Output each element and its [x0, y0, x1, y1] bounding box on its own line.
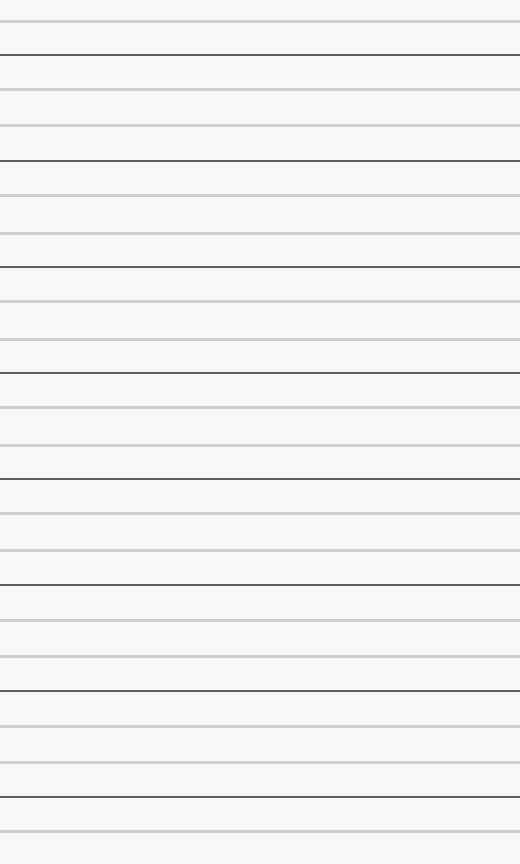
dark-rule-line: [0, 478, 520, 480]
light-rule-line: [0, 232, 520, 235]
light-rule-line: [0, 124, 520, 127]
light-rule-line: [0, 88, 520, 91]
dark-rule-line: [0, 372, 520, 374]
dark-rule-line: [0, 690, 520, 692]
light-rule-line: [0, 444, 520, 447]
dark-rule-line: [0, 160, 520, 162]
light-rule-line: [0, 830, 520, 833]
dark-rule-line: [0, 796, 520, 798]
light-rule-line: [0, 725, 520, 728]
light-rule-line: [0, 761, 520, 764]
dark-rule-line: [0, 266, 520, 268]
light-rule-line: [0, 20, 520, 23]
light-rule-line: [0, 194, 520, 197]
light-rule-line: [0, 338, 520, 341]
dark-rule-line: [0, 584, 520, 586]
light-rule-line: [0, 300, 520, 303]
dark-rule-line: [0, 54, 520, 56]
light-rule-line: [0, 406, 520, 409]
light-rule-line: [0, 549, 520, 552]
light-rule-line: [0, 619, 520, 622]
light-rule-line: [0, 655, 520, 658]
light-rule-line: [0, 512, 520, 515]
